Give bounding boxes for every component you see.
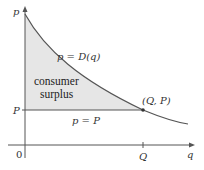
point-label: (Q, P) <box>142 95 171 106</box>
region-label-line1: consumer <box>34 75 79 87</box>
equilibrium-point <box>141 108 145 112</box>
origin-label: 0 <box>16 149 22 160</box>
consumer-surplus-diagram: p q 0 P Q p = D(q) p = P (Q, P) consumer… <box>0 0 204 170</box>
region-label-line2: surplus <box>40 88 74 101</box>
y-tick-label-P: P <box>12 105 20 116</box>
y-axis-label: p <box>13 6 20 17</box>
curve-label: p = D(q) <box>57 51 100 62</box>
x-tick-label-Q: Q <box>139 151 147 162</box>
y-axis-arrow-icon <box>23 6 28 12</box>
x-axis-arrow-icon <box>189 143 195 148</box>
price-line-label: p = P <box>72 115 100 126</box>
x-axis-label: q <box>187 149 193 160</box>
